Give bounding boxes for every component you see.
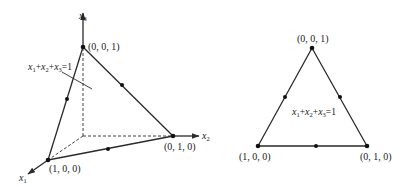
plane-equation-label: x1+x2+x3=1 xyxy=(27,61,72,73)
vertex-label-top: (0, 0, 1) xyxy=(88,41,120,53)
vertex-label-left: (1, 0, 0) xyxy=(49,163,81,175)
x3-axis-label: x3 xyxy=(78,10,87,22)
vertex-dot-left xyxy=(256,144,261,149)
vertex-dot-top xyxy=(81,45,86,50)
vertex-dot-left xyxy=(46,158,51,163)
midpoint-dot-right xyxy=(120,83,124,87)
midpoint-dot-left xyxy=(283,95,287,99)
midpoint-dot-bottom xyxy=(314,144,318,148)
vertex-dot-right xyxy=(171,134,176,139)
vertex-dot-right xyxy=(365,144,370,149)
plane-label-pointer xyxy=(62,72,92,89)
midpoint-dot-left xyxy=(65,97,69,101)
x1-axis-label: x1 xyxy=(18,172,27,184)
left-3d-simplex: x3 x2 x1 (0, 0, 1) (0, 1, 0) (1, 0, 0) x… xyxy=(18,10,210,184)
midpoint-dot-right xyxy=(338,95,342,99)
plane-equation-label: x1+x2+x3=1 xyxy=(291,106,336,118)
edge-bottom xyxy=(48,136,173,160)
midpoint-dot-bottom xyxy=(106,147,110,151)
x2-axis-label: x2 xyxy=(201,130,210,142)
simplex-figure: x3 x2 x1 (0, 0, 1) (0, 1, 0) (1, 0, 0) x… xyxy=(0,0,411,187)
right-2d-simplex: (0, 0, 1) (1, 0, 0) (0, 1, 0) x1+x2+x3=1 xyxy=(239,33,392,163)
vertex-label-left: (1, 0, 0) xyxy=(239,151,271,163)
edge-right xyxy=(83,47,173,136)
x1-axis xyxy=(28,160,48,174)
vertex-label-right: (0, 1, 0) xyxy=(360,151,392,163)
vertex-dot-top xyxy=(310,46,315,51)
vertex-label-top: (0, 0, 1) xyxy=(297,33,329,45)
vertex-label-right: (0, 1, 0) xyxy=(164,141,196,153)
simplex-triangle xyxy=(258,48,367,146)
